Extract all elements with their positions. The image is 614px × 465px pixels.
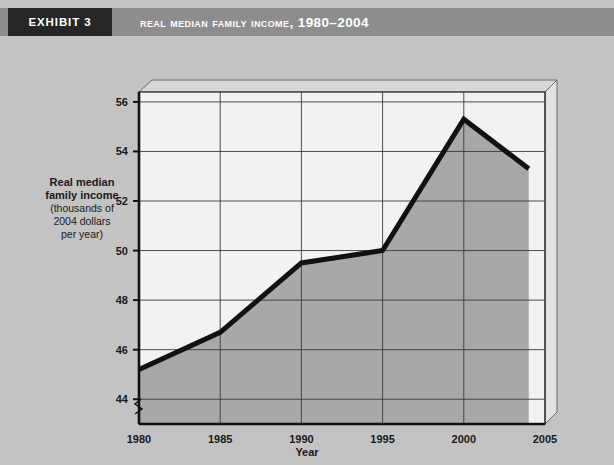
- x-tick-label: 2000: [452, 433, 476, 445]
- y-tick-label: 54: [116, 145, 129, 157]
- y-axis-ticks: 44464850525456: [116, 96, 139, 405]
- y-tick-label: 44: [116, 393, 129, 405]
- chart-container: 44464850525456 198019851990199520002005 …: [0, 36, 614, 465]
- y-axis-title-line1: Real median: [34, 176, 130, 189]
- x-axis-title: Year: [0, 446, 614, 458]
- exhibit-tab: EXHIBIT 3: [8, 8, 112, 36]
- y-axis-subtitle-line3: per year): [34, 228, 130, 241]
- page-title: Real Median Family Income, 1980–2004: [140, 8, 369, 36]
- x-tick-label: 1995: [370, 433, 394, 445]
- y-tick-label: 46: [116, 344, 128, 356]
- y-tick-label: 50: [116, 245, 128, 257]
- y-tick-label: 48: [116, 294, 128, 306]
- y-axis-subtitle-line1: (thousands of: [34, 202, 130, 215]
- chart-bevel-top: [139, 80, 557, 92]
- x-tick-label: 1985: [208, 433, 232, 445]
- exhibit-label: EXHIBIT 3: [28, 16, 91, 28]
- y-axis-title: Real median family income (thousands of …: [34, 176, 130, 241]
- y-axis-title-line2: family income: [34, 189, 130, 202]
- line-chart: 44464850525456 198019851990199520002005: [0, 36, 614, 465]
- x-axis-ticks: 198019851990199520002005: [127, 433, 557, 445]
- chart-bevel-right: [545, 80, 557, 424]
- x-tick-label: 1990: [289, 433, 313, 445]
- x-tick-label: 2005: [533, 433, 557, 445]
- x-tick-label: 1980: [127, 433, 151, 445]
- y-tick-label: 56: [116, 96, 128, 108]
- y-axis-subtitle-line2: 2004 dollars: [34, 215, 130, 228]
